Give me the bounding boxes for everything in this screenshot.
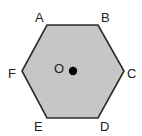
vertex-label-F: F [8, 66, 16, 81]
hexagon-diagram: A B C D E F O [0, 0, 142, 136]
vertex-label-D: D [100, 119, 109, 134]
center-point-O [69, 67, 77, 75]
center-label-O: O [54, 61, 64, 76]
vertex-label-C: C [127, 66, 136, 81]
vertex-label-E: E [34, 119, 43, 134]
vertex-label-B: B [101, 10, 110, 25]
vertex-label-A: A [35, 10, 44, 25]
